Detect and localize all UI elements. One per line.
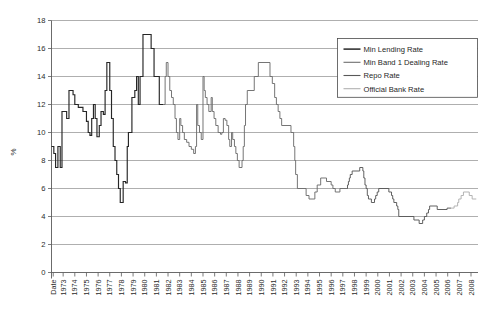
- y-tick-label: 14: [37, 72, 45, 81]
- x-tick-labels: Date197319741975197619771978197919801981…: [49, 280, 476, 296]
- y-tick-label: 18: [37, 16, 45, 25]
- x-tick-label: 1988: [234, 280, 243, 296]
- x-tick-label: 1981: [152, 280, 161, 296]
- x-tick-label: 1995: [315, 280, 324, 296]
- x-tick-label: 2002: [397, 280, 406, 296]
- y-axis-title: %: [9, 148, 18, 155]
- x-tick-label: 1979: [129, 280, 138, 296]
- y-tick-label: 6: [41, 184, 45, 193]
- x-tick-label: 1989: [245, 280, 254, 296]
- x-tick-label: Date: [49, 280, 58, 295]
- chart-canvas: 024681012141618 Date19731974197519761977…: [0, 0, 498, 318]
- x-tick-label: 2000: [373, 280, 382, 296]
- y-tick-label: 0: [41, 268, 45, 277]
- x-tick-label: 2007: [455, 280, 464, 296]
- x-tick-label: 2003: [408, 280, 417, 296]
- x-tick-label: 1973: [59, 280, 68, 296]
- legend-label: Min Band 1 Dealing Rate: [364, 58, 448, 67]
- legend-label: Official Bank Rate: [364, 85, 425, 94]
- x-tick-label: 1984: [187, 280, 196, 296]
- legend-label: Min Lending Rate: [364, 45, 424, 54]
- x-tick-label: 1999: [362, 280, 371, 296]
- x-tick-label: 1994: [303, 280, 312, 296]
- chart-legend: Min Lending RateMin Band 1 Dealing RateR…: [338, 39, 478, 98]
- x-tick-label: 1983: [175, 280, 184, 296]
- x-tick-label: 1976: [94, 280, 103, 296]
- x-tick-label: 1974: [70, 280, 79, 296]
- legend-label: Repo Rate: [364, 71, 400, 80]
- y-tick-label: 12: [37, 100, 45, 109]
- x-tick-label: 1996: [327, 280, 336, 296]
- x-tick-label: 1997: [338, 280, 347, 296]
- x-tick-label: 1980: [140, 280, 149, 296]
- x-tick-label: 1977: [105, 280, 114, 296]
- x-tick-label: 2004: [420, 280, 429, 296]
- x-tick-label: 1990: [257, 280, 266, 296]
- y-tick-label: 8: [41, 156, 45, 165]
- x-tick-label: 2001: [385, 280, 394, 296]
- x-tick-label: 2008: [467, 280, 476, 296]
- x-tick-label: 1992: [280, 280, 289, 296]
- x-tick-label: 1991: [269, 280, 278, 296]
- x-tick-label: 1987: [222, 280, 231, 296]
- x-tick-label: 1986: [210, 280, 219, 296]
- x-tick-label: 2005: [432, 280, 441, 296]
- y-tick-label: 10: [37, 128, 45, 137]
- x-tick-label: 1975: [82, 280, 91, 296]
- x-tick-label: 1998: [350, 280, 359, 296]
- x-tick-label: 1982: [164, 280, 173, 296]
- x-tick-label: 1993: [292, 280, 301, 296]
- x-tick-label: 1978: [117, 280, 126, 296]
- x-tick-label: 2006: [443, 280, 452, 296]
- x-tick-label: 1985: [199, 280, 208, 296]
- y-tick-label: 4: [41, 212, 45, 221]
- interest-rate-chart: 024681012141618 Date19731974197519761977…: [0, 0, 498, 318]
- y-tick-label: 16: [37, 44, 45, 53]
- y-tick-label: 2: [41, 240, 45, 249]
